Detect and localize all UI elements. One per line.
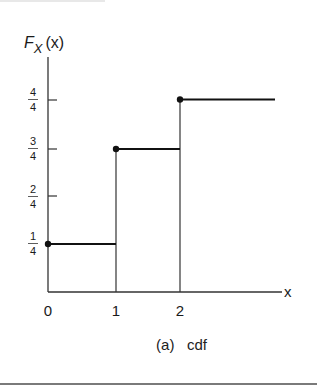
- cdf-chart: FX(x) 4 4 3 4 2 4 1 4 0 1 2 x: [0, 0, 317, 385]
- svg-text:4: 4: [30, 150, 36, 162]
- svg-text:4: 4: [30, 86, 36, 98]
- figure-caption: (a) cdf: [0, 336, 317, 353]
- caption-part-label: (a): [156, 336, 174, 353]
- y-tick-label-2-4: 2 4: [28, 183, 38, 210]
- x-tick-label-0: 0: [44, 302, 52, 319]
- y-tick-label-1-4: 1 4: [28, 230, 38, 257]
- svg-text:1: 1: [30, 230, 36, 242]
- svg-text:3: 3: [30, 135, 36, 147]
- y-tick-label-4-4: 4 4: [28, 86, 38, 113]
- caption-text: cdf: [187, 336, 207, 353]
- x-axis-label: x: [284, 283, 292, 300]
- svg-text:4: 4: [30, 245, 36, 257]
- jump-point-2: [177, 96, 183, 102]
- y-tick-label-3-4: 3 4: [28, 135, 38, 162]
- jump-point-0: [45, 241, 51, 247]
- x-tick-label-2: 2: [176, 302, 184, 319]
- y-axis-label: FX(x): [24, 34, 64, 56]
- svg-text:4: 4: [30, 101, 36, 113]
- svg-text:2: 2: [30, 183, 36, 195]
- x-tick-label-1: 1: [112, 302, 120, 319]
- svg-text:4: 4: [30, 198, 36, 210]
- jump-point-1: [113, 146, 119, 152]
